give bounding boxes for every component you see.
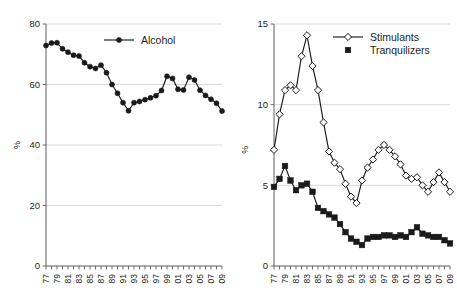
data-point-marker [93, 66, 98, 71]
alcohol-xtick-labels: 7779818385878991939597990103050709 [41, 274, 227, 284]
data-point-marker [326, 212, 332, 218]
data-point-marker [165, 74, 170, 79]
series-markers-alcohol [44, 40, 225, 113]
data-point-marker [304, 181, 310, 187]
data-point-marker [441, 179, 448, 186]
data-point-marker [348, 236, 354, 242]
data-point-marker [55, 40, 60, 45]
alcohol-ytick-labels: 020406080 [29, 18, 40, 271]
x-tick-label: 89 [107, 274, 117, 284]
series-markers-stimulants [270, 32, 453, 207]
data-point-marker [342, 180, 349, 187]
x-tick-label: 87 [96, 274, 106, 284]
data-point-marker [181, 87, 186, 92]
data-point-marker [77, 54, 82, 59]
data-point-marker [49, 41, 54, 46]
y-tick-label: 20 [29, 200, 40, 211]
data-point-marker [117, 38, 122, 43]
data-point-marker [425, 233, 431, 239]
figure-root: 020406080 777981838587899193959799010305… [0, 0, 457, 308]
x-tick-label: 01 [401, 274, 411, 284]
y-tick-label: 80 [29, 18, 40, 29]
data-point-marker [364, 164, 371, 171]
data-point-marker [315, 205, 321, 211]
data-point-marker [276, 111, 283, 118]
data-point-marker [44, 43, 49, 48]
data-point-marker [88, 64, 93, 69]
y-tick-label: 5 [263, 180, 268, 191]
x-tick-label: 85 [85, 274, 95, 284]
data-point-marker [365, 236, 371, 242]
data-point-marker [192, 77, 197, 82]
right-series [270, 32, 453, 248]
data-point-marker [104, 70, 109, 75]
data-point-marker [403, 234, 409, 240]
data-point-marker [398, 233, 404, 239]
legend-label-stimulants: Stimulants [370, 31, 419, 43]
data-point-marker [176, 87, 181, 92]
right-y-axis-title: % [240, 146, 250, 154]
data-point-marker [435, 169, 442, 176]
data-point-marker [381, 233, 387, 239]
x-tick-label: 97 [379, 274, 389, 284]
x-tick-label: 99 [162, 274, 172, 284]
x-tick-label: 85 [313, 274, 323, 284]
data-point-marker [209, 97, 214, 102]
y-tick-label: 0 [263, 260, 268, 271]
y-tick-label: 0 [35, 260, 40, 271]
x-tick-label: 91 [118, 274, 128, 284]
data-point-marker [159, 88, 164, 93]
x-tick-label: 87 [324, 274, 334, 284]
x-tick-label: 83 [74, 274, 84, 284]
x-tick-label: 09 [445, 274, 455, 284]
data-point-marker [343, 229, 349, 235]
data-point-marker [288, 178, 294, 184]
alcohol-gridlines [46, 24, 222, 206]
data-point-marker [325, 148, 332, 155]
right-ytick-labels: 051015 [257, 18, 268, 271]
data-point-marker [359, 242, 365, 248]
data-point-marker [414, 224, 420, 230]
data-point-marker [203, 93, 208, 98]
x-tick-label: 77 [41, 274, 51, 284]
data-point-marker [320, 119, 327, 126]
chart-panel-alcohol: 020406080 777981838587899193959799010305… [0, 0, 229, 308]
y-axis-title: % [12, 141, 22, 149]
data-point-marker [397, 161, 404, 168]
legend-label-tranquilizers: Tranquilizers [370, 44, 430, 56]
data-point-marker [71, 53, 76, 58]
data-point-marker [369, 156, 376, 163]
data-point-marker [337, 221, 343, 227]
x-tick-label: 79 [280, 274, 290, 284]
legend-label-alcohol: Alcohol [141, 34, 175, 46]
x-tick-label: 95 [140, 274, 150, 284]
x-tick-label: 05 [423, 274, 433, 284]
x-tick-label: 79 [52, 274, 62, 284]
data-point-marker [332, 215, 338, 221]
x-tick-label: 03 [412, 274, 422, 284]
chart-panel-stimulants-tranquilizers: 051015 777981838587899193959799010305070… [228, 0, 457, 308]
data-point-marker [187, 75, 192, 80]
right-xtick-labels: 7779818385878991939597990103050709 [269, 274, 455, 284]
data-point-marker [298, 53, 305, 60]
alcohol-plot-svg: 020406080 777981838587899193959799010305… [0, 0, 229, 308]
data-point-marker [126, 108, 131, 113]
data-point-marker [220, 109, 225, 114]
alcohol-axis [43, 24, 223, 270]
stimulants-plot-svg: 051015 777981838587899193959799010305070… [228, 0, 457, 308]
x-tick-label: 91 [346, 274, 356, 284]
data-point-marker [310, 189, 316, 195]
data-point-marker [345, 47, 351, 53]
series-markers-tranquilizers [271, 163, 453, 248]
data-point-marker [214, 101, 219, 106]
data-point-marker [271, 184, 277, 190]
data-point-marker [442, 237, 448, 243]
x-tick-label: 03 [184, 274, 194, 284]
data-point-marker [148, 95, 153, 100]
right-legend: StimulantsTranquilizers [333, 31, 430, 56]
data-point-marker [409, 229, 415, 235]
data-point-marker [110, 82, 115, 87]
data-point-marker [376, 234, 382, 240]
data-point-marker [270, 146, 277, 153]
x-tick-label: 05 [195, 274, 205, 284]
